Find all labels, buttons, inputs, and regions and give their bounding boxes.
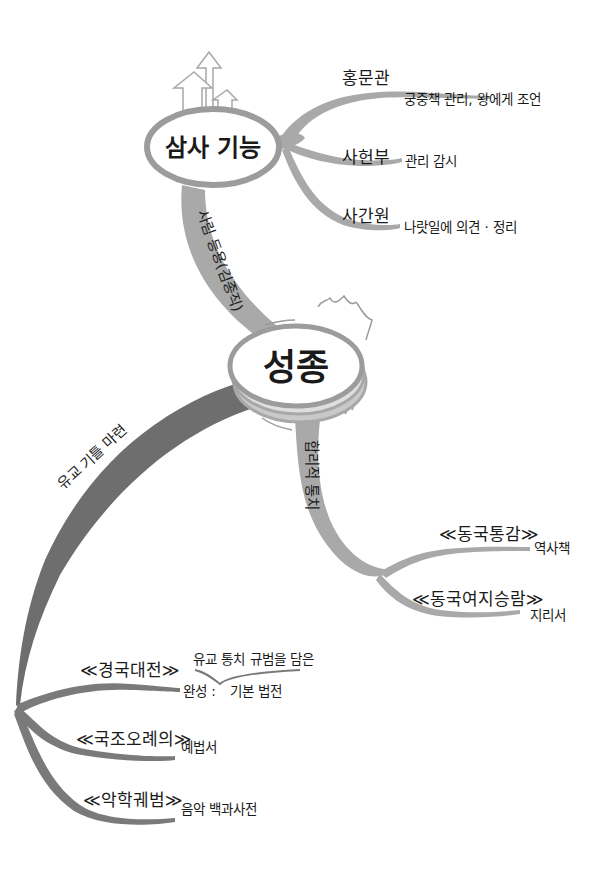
leaf-title-saganwon: 사간원	[342, 206, 390, 226]
growth-arrows-icon	[174, 52, 237, 112]
leaf-title-saheonbu: 사헌부	[342, 147, 390, 167]
leaf-title-gukjo: ≪국조오례의≫	[76, 729, 192, 749]
leaf-desc-gyeongguk-top: 유교 통치 규범을 담은	[193, 651, 314, 667]
leaf-desc-gyeongguk-prefix: 완성 :	[183, 683, 216, 699]
leaf-title-gyeongguk: ≪경국대전≫	[80, 660, 180, 680]
leaf-desc-donggukyeoji: 지리서	[530, 607, 566, 623]
mindmap-canvas: 삼사 기능 성종 사림 등용(김종직) 합리적 통치 유교 기틀 마련 홍문관 …	[0, 0, 609, 871]
leaf-title-hongmungwan: 홍문관	[342, 68, 390, 88]
brace-icon	[195, 670, 300, 684]
leaf-desc-akhak: 음악 백과사전	[181, 801, 257, 817]
leaf-title-donggukyeoji: ≪동국여지승람≫	[412, 589, 544, 609]
edge-label-rational: 합리적 통치	[304, 440, 320, 510]
leaf-desc-saheonbu: 관리 감시	[405, 153, 457, 169]
node-center-label: 성종	[263, 347, 329, 388]
leaf-desc-gyeongguk-bottom: 기본 법전	[230, 683, 282, 699]
leaf-desc-donggukgonggam: 역사책	[534, 540, 570, 556]
node-samsa-label: 삼사 기능	[165, 134, 261, 162]
leaf-desc-saganwon: 나랏일에 의견 · 정리	[404, 219, 517, 235]
leaf-desc-hongmungwan: 궁중책 관리, 왕에게 조언	[404, 91, 541, 107]
leaf-desc-gukjo: 예법서	[181, 739, 217, 755]
mindmap-diagram: 삼사 기능 성종 사림 등용(김종직) 합리적 통치 유교 기틀 마련 홍문관 …	[0, 0, 609, 871]
leaf-title-donggukgonggam: ≪동국통감≫	[439, 524, 539, 544]
node-samsa: 삼사 기능	[147, 109, 279, 185]
leaf-title-akhak: ≪악학궤범≫	[83, 790, 183, 810]
